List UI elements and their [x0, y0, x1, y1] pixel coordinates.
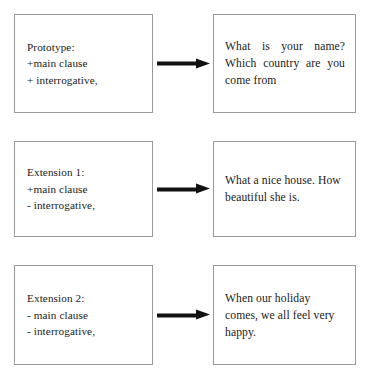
feature-box-extension-2: Extension 2: - main clause - interrogati…	[14, 265, 153, 365]
diagram-row-extension-2: Extension 2: - main clause - interrogati…	[0, 265, 376, 365]
arrow-shaft	[157, 313, 197, 317]
example-box-prototype-text: What is your name? Which country are you…	[214, 38, 355, 89]
right-arrow-icon	[157, 184, 210, 195]
right-arrow-icon	[157, 310, 210, 321]
feature-box-prototype: Prototype: +main clause + interrogative,	[14, 14, 153, 113]
flow-diagram: Prototype: +main clause + interrogative,…	[0, 0, 376, 381]
feature-box-extension-1: Extension 1: +main clause - interrogativ…	[14, 141, 153, 237]
example-box-prototype: What is your name? Which country are you…	[213, 14, 356, 113]
right-arrow-icon	[157, 58, 210, 69]
arrow-head	[196, 310, 210, 320]
feature-box-extension-1-text: Extension 1: +main clause - interrogativ…	[15, 164, 95, 214]
arrow-head	[196, 58, 210, 68]
example-box-extension-1: What a nice house. How beautiful she is.	[213, 141, 356, 237]
example-box-extension-2-text: When our holiday comes, we all feel very…	[214, 290, 355, 341]
feature-box-extension-2-text: Extension 2: - main clause - interrogati…	[15, 290, 95, 340]
arrow-shaft	[157, 62, 197, 66]
diagram-row-prototype: Prototype: +main clause + interrogative,…	[0, 14, 376, 113]
diagram-row-extension-1: Extension 1: +main clause - interrogativ…	[0, 141, 376, 237]
example-box-extension-2: When our holiday comes, we all feel very…	[213, 265, 356, 365]
arrow-shaft	[157, 187, 197, 191]
arrow-head	[196, 184, 210, 194]
feature-box-prototype-text: Prototype: +main clause + interrogative,	[15, 39, 98, 89]
example-box-extension-1-text: What a nice house. How beautiful she is.	[214, 172, 355, 206]
